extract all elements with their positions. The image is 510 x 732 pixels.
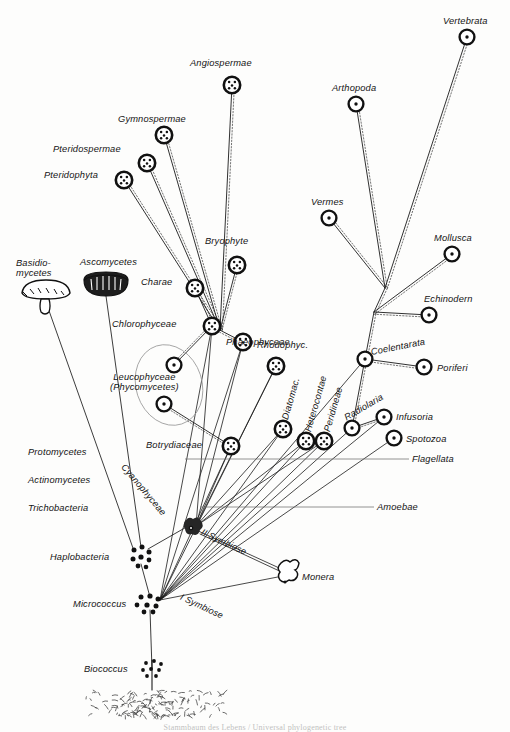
node-marker-gymnospermae xyxy=(156,127,172,143)
reference-lines xyxy=(185,459,409,507)
micrococcus-colony-icon xyxy=(135,593,161,614)
node-marker-bryophyte xyxy=(229,257,245,273)
node-marker-vertebrata xyxy=(460,30,475,45)
node-marker-spotozoa xyxy=(387,431,402,446)
node-marker-poriferi xyxy=(417,360,432,375)
node-marker-diatomac xyxy=(275,421,291,437)
second-symbiosis-node-icon xyxy=(184,517,203,535)
node-marker-chlorophyceae xyxy=(204,318,220,334)
monera-amoeba-icon xyxy=(278,560,299,584)
tree-edges xyxy=(47,37,469,690)
phylogenetic-tree-figure: Vertebrata Arthopoda Vermes Mollusca Ech… xyxy=(0,0,510,732)
cup-fungus-icon xyxy=(84,272,128,296)
primordial-substrate-icon xyxy=(86,690,227,719)
node-marker-radiolaria xyxy=(345,421,360,436)
node-marker-vermes xyxy=(322,211,337,226)
node-marker-pteridospermae xyxy=(139,155,155,171)
mushroom-icon xyxy=(22,280,70,314)
node-marker-infusoria xyxy=(377,410,392,425)
node-marker-leucophyceae_b xyxy=(157,397,172,412)
node-marker-mollusca xyxy=(445,247,460,262)
tree-canvas xyxy=(0,0,510,732)
node-marker-pteridophyta xyxy=(116,172,132,188)
node-marker-botrydiaceae xyxy=(223,438,239,454)
node-marker-echinodern xyxy=(422,308,437,323)
node-marker-angiospermae xyxy=(224,77,240,93)
node-marker-phaeophyceae xyxy=(235,334,251,350)
figure-caption: Stammbaum des Lebens / Universal phyloge… xyxy=(0,723,510,732)
node-marker-rhodophyc xyxy=(268,358,284,374)
node-marker-heterocontae xyxy=(298,433,314,449)
node-marker-coelentarata xyxy=(358,352,373,367)
node-marker-arthopoda xyxy=(349,97,364,112)
node-marker-peridineae xyxy=(316,433,332,449)
tree-node-markers xyxy=(116,30,475,455)
node-marker-charae xyxy=(187,280,203,296)
node-marker-leucophyceae_a xyxy=(167,358,182,373)
leucophyceae-grouping-ellipse xyxy=(125,336,213,434)
